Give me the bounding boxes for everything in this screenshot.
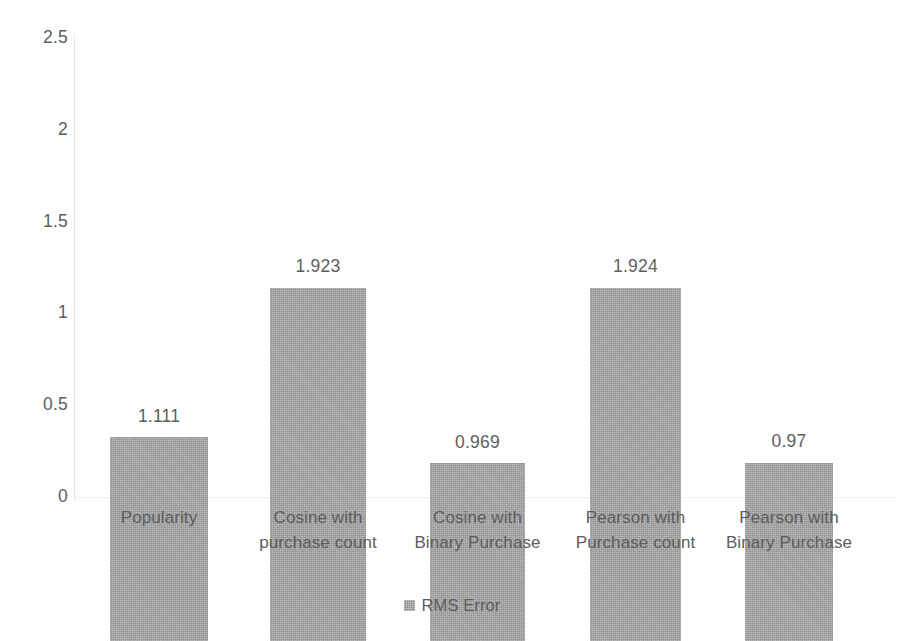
bar-value-label: 1.924: [568, 258, 703, 276]
legend-square-swatch-icon: [404, 600, 415, 611]
x-category-label-line1: Popularity: [121, 508, 198, 527]
legend-item[interactable]: RMS Error: [404, 597, 501, 614]
x-category-label-line1: Pearson with: [586, 508, 685, 527]
bar-chart: 00.511.522.5 1.1111.9230.9691.9240.97 Po…: [0, 0, 904, 641]
bar-value-label: 1.923: [248, 258, 388, 276]
chart-legend: RMS Error: [0, 597, 904, 614]
bar-value-label: 1.111: [88, 408, 230, 426]
x-category-label: Popularity: [74, 505, 244, 530]
x-category-label: Cosine withBinary Purchase: [393, 505, 563, 555]
x-category-label-line1: Cosine with: [433, 508, 522, 527]
x-category-label: Pearson withPurchase count: [551, 505, 721, 555]
x-category-label-line1: Pearson with: [739, 508, 838, 527]
x-category-label: Cosine withpurchase count: [233, 505, 403, 555]
x-axis-category-labels: PopularityCosine withpurchase countCosin…: [0, 505, 904, 575]
x-category-label-line1: Cosine with: [274, 508, 363, 527]
bar[interactable]: [590, 288, 681, 641]
bar-value-label: 0.969: [408, 434, 547, 452]
x-category-label: Pearson withBinary Purchase: [704, 505, 874, 555]
bar[interactable]: [270, 288, 366, 641]
legend-item-label: RMS Error: [422, 597, 501, 614]
x-category-label-line2: purchase count: [233, 530, 403, 555]
bar-value-label: 0.97: [723, 433, 855, 451]
x-category-label-line2: Purchase count: [551, 530, 721, 555]
x-category-label-line2: Binary Purchase: [704, 530, 874, 555]
x-category-label-line2: Binary Purchase: [393, 530, 563, 555]
